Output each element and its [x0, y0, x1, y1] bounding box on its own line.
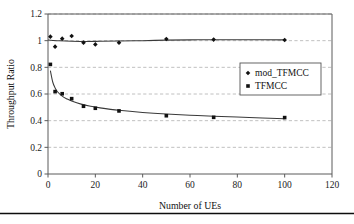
data-point-TFMCC-7: [165, 114, 169, 118]
y-tick-label-1.2: 1.2: [30, 9, 42, 19]
x-tick-label-100: 100: [278, 180, 293, 190]
x-tick-label-40: 40: [138, 180, 148, 190]
data-point-TFMCC-4: [82, 104, 86, 108]
y-tick-label-0.6: 0.6: [30, 89, 42, 99]
data-point-TFMCC-0: [49, 63, 53, 67]
y-tick-label-0: 0: [37, 169, 42, 179]
x-axis-title: Number of UEs: [159, 200, 221, 211]
y-tick-label-0.2: 0.2: [30, 143, 42, 153]
figure-container: 00.20.40.60.811.2 020406080100120 Throug…: [0, 0, 354, 224]
legend-label-mod_TFMCC: mod_TFMCC: [255, 68, 309, 78]
y-axis-title: Throughput Ratio: [5, 59, 16, 129]
throughput-ratio-chart: 00.20.40.60.811.2 020406080100120 Throug…: [0, 0, 354, 224]
x-tick-label-80: 80: [233, 180, 243, 190]
data-point-TFMCC-3: [70, 97, 74, 101]
data-point-TFMCC-6: [117, 109, 121, 113]
chart-background: [0, 0, 354, 224]
data-point-TFMCC-1: [53, 90, 57, 94]
x-tick-label-120: 120: [325, 180, 340, 190]
y-tick-label-0.4: 0.4: [30, 116, 42, 126]
legend-marker-TFMCC: [246, 84, 250, 88]
x-tick-label-0: 0: [46, 180, 51, 190]
y-tick-label-1: 1: [37, 36, 42, 46]
chart-legend: mod_TFMCCTFMCC: [240, 63, 321, 95]
data-point-TFMCC-2: [60, 92, 64, 96]
data-point-TFMCC-8: [212, 116, 216, 120]
legend-label-TFMCC: TFMCC: [255, 81, 287, 91]
x-tick-label-60: 60: [185, 180, 195, 190]
y-tick-label-0.8: 0.8: [30, 63, 42, 73]
x-tick-label-20: 20: [91, 180, 101, 190]
data-point-TFMCC-5: [94, 106, 98, 110]
data-point-TFMCC-9: [283, 116, 287, 120]
